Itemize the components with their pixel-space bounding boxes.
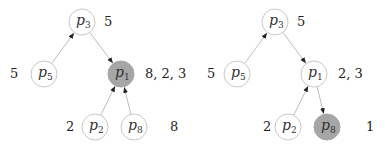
tree-left: p35p55p18, 2, 3p22p88 <box>10 9 186 140</box>
edge-p8-to-p1 <box>124 88 131 115</box>
node-annotation: 2 <box>66 119 74 134</box>
node-annotation: 8 <box>170 119 178 134</box>
node-annotation: 2 <box>263 119 271 134</box>
node-annotation: 5 <box>104 14 112 29</box>
node-p1: p12, 3 <box>301 61 363 87</box>
edge-p3-to-p1 <box>90 32 113 62</box>
node-p8: p88 <box>121 114 178 140</box>
edge-p5-to-p3 <box>245 33 267 63</box>
node-p2: p22 <box>263 114 301 140</box>
node-p2: p22 <box>66 114 108 140</box>
tree-right: p35p55p12, 3p22p81 <box>207 9 374 140</box>
node-annotation: 5 <box>297 14 305 29</box>
node-p3: p35 <box>69 9 112 35</box>
node-annotation: 5 <box>207 66 215 81</box>
edge-p2-to-p1 <box>101 87 115 116</box>
node-annotation: 5 <box>10 66 18 81</box>
edge-p2-to-p1 <box>294 87 308 116</box>
edge-p1-to-p8 <box>317 87 324 114</box>
node-p5: p55 <box>10 61 57 87</box>
node-p3: p35 <box>262 9 305 35</box>
edge-p3-to-p1 <box>283 32 306 62</box>
edge-p5-to-p3 <box>52 33 74 63</box>
node-p8: p81 <box>314 114 374 140</box>
node-p5: p55 <box>207 61 250 87</box>
node-annotation: 8, 2, 3 <box>145 66 186 81</box>
node-annotation: 1 <box>366 119 374 134</box>
node-p1: p18, 2, 3 <box>108 61 186 87</box>
tree-diagram: p35p55p18, 2, 3p22p88 p35p55p12, 3p22p81 <box>0 0 385 152</box>
node-annotation: 2, 3 <box>338 66 363 81</box>
